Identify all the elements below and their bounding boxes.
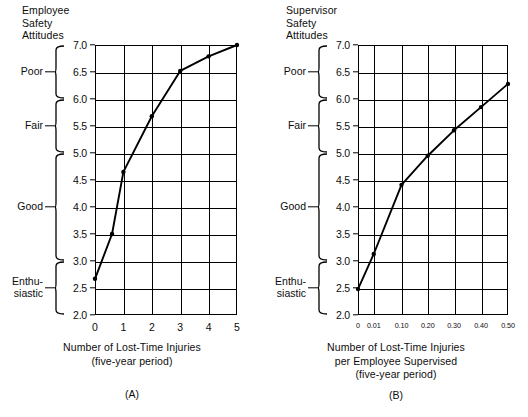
- y-axis-tick-label: 5.0: [324, 147, 350, 159]
- gridline-vertical: [209, 46, 210, 314]
- gridline-vertical: [124, 46, 125, 314]
- y-axis-tick-label: 2.5: [61, 282, 87, 294]
- x-axis-tick-label: 0: [92, 321, 98, 333]
- attitude-category-tick: [308, 71, 318, 72]
- gridline-horizontal: [96, 262, 236, 263]
- y-axis-tick-mark: [353, 314, 358, 315]
- y-axis-tick-label: 6.5: [324, 66, 350, 78]
- attitude-category-tick: [45, 206, 55, 207]
- y-axis-tick-label: 2.0: [324, 309, 350, 321]
- gridline-horizontal: [96, 235, 236, 236]
- gridline-horizontal: [96, 289, 236, 290]
- x-axis-tick-label: 3: [177, 321, 183, 333]
- y-axis-tick-mark: [90, 260, 95, 261]
- y-axis-tick-label: 6.5: [61, 66, 87, 78]
- x-axis-tick-label: 0: [356, 321, 360, 330]
- y-axis-tick-mark: [90, 98, 95, 99]
- y-axis-tick-label: 5.5: [61, 120, 87, 132]
- y-axis-tick-label: 3.0: [324, 255, 350, 267]
- y-axis-tick-mark: [90, 179, 95, 180]
- attitude-category-brace: [55, 153, 64, 261]
- y-axis-tick-mark: [353, 125, 358, 126]
- y-axis-tick-label: 4.5: [61, 174, 87, 186]
- gridline-horizontal: [359, 154, 507, 155]
- y-axis-tick-mark: [90, 233, 95, 234]
- x-axis-tick-label: 0.20: [421, 321, 435, 330]
- y-axis-tick-label: 5.0: [61, 147, 87, 159]
- attitude-category-label: Poor: [0, 66, 43, 78]
- x-axis-tick-label: 1: [120, 321, 126, 333]
- y-axis-tick-mark: [353, 179, 358, 180]
- x-axis-tick-label: 0.30: [447, 321, 461, 330]
- x-axis-tick-label: 0.10: [395, 321, 409, 330]
- y-axis-tick-mark: [90, 206, 95, 207]
- y-axis-tick-mark: [353, 44, 358, 45]
- y-axis-tick-mark: [353, 71, 358, 72]
- y-axis-tick-mark: [90, 44, 95, 45]
- attitude-category-tick: [308, 206, 318, 207]
- y-axis-tick-mark: [353, 98, 358, 99]
- y-axis-tick-label: 3.0: [61, 255, 87, 267]
- attitude-category-brace: [318, 153, 327, 261]
- attitude-category-tick: [45, 287, 55, 288]
- attitude-category-brace: [318, 45, 327, 99]
- gridline-horizontal: [96, 73, 236, 74]
- y-axis-tick-mark: [90, 71, 95, 72]
- attitude-category-brace: [55, 45, 64, 99]
- chart-b-title: Supervisor Safety Attitudes: [286, 4, 337, 42]
- y-axis-tick-mark: [353, 206, 358, 207]
- attitude-category-tick: [45, 125, 55, 126]
- attitude-category-label: Enthu- siastic: [244, 276, 306, 300]
- chart-b-panel-letter: (B): [264, 389, 528, 401]
- y-axis-tick-label: 7.0: [324, 39, 350, 51]
- gridline-horizontal: [359, 262, 507, 263]
- gridline-horizontal: [96, 181, 236, 182]
- x-axis-tick-label: 2: [149, 321, 155, 333]
- attitude-category-label: Fair: [244, 120, 306, 132]
- gridline-horizontal: [96, 100, 236, 101]
- y-axis-tick-label: 6.0: [324, 93, 350, 105]
- attitude-category-brace: [55, 261, 64, 315]
- y-axis-tick-mark: [90, 287, 95, 288]
- chart-a-title: Employee Safety Attitudes: [22, 4, 70, 42]
- y-axis-tick-mark: [90, 152, 95, 153]
- chart-a-panel-letter: (A): [0, 388, 264, 400]
- gridline-vertical: [428, 46, 429, 314]
- gridline-vertical: [455, 46, 456, 314]
- y-axis-tick-label: 7.0: [61, 39, 87, 51]
- y-axis-tick-label: 5.5: [324, 120, 350, 132]
- gridline-horizontal: [359, 127, 507, 128]
- attitude-category-tick: [308, 125, 318, 126]
- y-axis-tick-mark: [90, 314, 95, 315]
- y-axis-tick-label: 3.5: [61, 228, 87, 240]
- attitude-category-label: Good: [244, 201, 306, 213]
- y-axis-tick-label: 2.0: [61, 309, 87, 321]
- y-axis-tick-label: 3.5: [324, 228, 350, 240]
- chart-b-xlabel: Number of Lost-Time Injuries per Employe…: [264, 341, 528, 382]
- chart-a-plot-area: [95, 45, 237, 315]
- chart-b-plot-area: [358, 45, 508, 315]
- y-axis-tick-mark: [353, 260, 358, 261]
- x-axis-tick-label: 0.40: [474, 321, 488, 330]
- attitude-category-label: Fair: [0, 120, 43, 132]
- y-axis-tick-label: 4.0: [61, 201, 87, 213]
- gridline-horizontal: [359, 181, 507, 182]
- gridline-horizontal: [359, 289, 507, 290]
- y-axis-tick-mark: [353, 287, 358, 288]
- gridline-vertical: [402, 46, 403, 314]
- attitude-category-label: Enthu- siastic: [0, 276, 43, 300]
- gridline-horizontal: [359, 73, 507, 74]
- gridline-horizontal: [96, 154, 236, 155]
- attitude-category-tick: [308, 287, 318, 288]
- attitude-category-brace: [318, 99, 327, 153]
- y-axis-tick-label: 2.5: [324, 282, 350, 294]
- attitude-category-brace: [55, 99, 64, 153]
- gridline-vertical: [152, 46, 153, 314]
- x-axis-tick-label: 4: [206, 321, 212, 333]
- gridline-vertical: [482, 46, 483, 314]
- x-axis-tick-label: 0.01: [367, 321, 381, 330]
- chart-panel-b: Supervisor Safety Attitudes 2.02.53.03.5…: [264, 0, 528, 417]
- gridline-horizontal: [96, 208, 236, 209]
- x-axis-tick-label: 5: [234, 321, 240, 333]
- gridline-horizontal: [359, 100, 507, 101]
